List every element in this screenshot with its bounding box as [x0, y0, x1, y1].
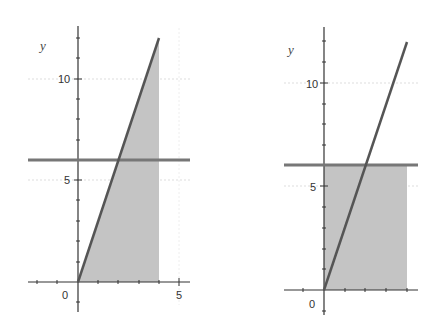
right-plot: y 10 5 0 — [284, 27, 418, 315]
origin-label: 0 — [62, 289, 68, 301]
shaded-rectangle — [324, 165, 407, 290]
y-tick-label-10: 10 — [306, 78, 318, 90]
origin-label: 0 — [309, 298, 315, 310]
y-tick-label-5: 5 — [64, 174, 70, 186]
y-tick-label-5: 5 — [310, 181, 316, 193]
figure: y 10 5 0 5 y — [0, 0, 434, 330]
left-plot: y 10 5 0 5 — [28, 26, 190, 312]
y-axis-label: y — [286, 42, 294, 57]
y-axis-label: y — [38, 38, 46, 53]
y-tick-label-10: 10 — [58, 73, 70, 85]
x-tick-label-5: 5 — [176, 289, 182, 301]
